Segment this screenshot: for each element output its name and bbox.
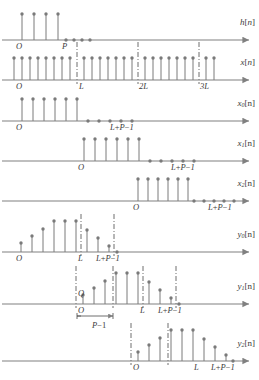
stem-dot-x-7 [68,56,71,59]
stem-dot-y1-6 [147,280,150,283]
panel-y1 [2,266,249,308]
tick-label-y0-2: L+P−1 [96,254,120,263]
stem-dot-y1-3 [114,271,117,274]
stem-dot-x-6 [60,56,63,59]
stem-dot-x-1 [20,56,23,59]
signal-label-y2: y2[n] [238,339,256,348]
stem-dot-x-22 [204,56,207,59]
zero-dot-x1-0 [148,159,151,162]
stem-dot-y2-1 [147,343,150,346]
signal-label-x0: x0[n] [238,99,256,108]
stem-dot-y0-3 [52,219,55,222]
stem-dot-x-5 [52,56,55,59]
stem-dot-x-23 [212,56,215,59]
stem-dot-x-21 [191,56,194,59]
stem-dot-x0-0 [20,97,23,100]
signal-label-h: h[n] [240,18,255,27]
stem-dot-y2-0 [136,350,139,353]
stem-dot-y0-7 [96,236,99,239]
panel-x0 [2,97,249,122]
stem-dot-y2-6 [202,337,205,340]
stem-dot-x0-5 [75,97,78,100]
panel-y2 [2,323,249,365]
stem-dot-x-2 [28,56,31,59]
stem-dot-y0-8 [107,244,110,247]
tick-label-y0-1: L [78,254,83,263]
tick-label-x2-0: O [133,203,139,212]
stem-dot-y1-7 [158,288,161,291]
stem-dot-x-17 [159,56,162,59]
stem-dot-x1-3 [115,137,118,140]
tick-label-h-1: P [62,42,67,51]
stem-dot-x-12 [114,56,117,59]
stem-dot-y0-1 [30,234,33,237]
stem-dot-y0-2 [41,227,44,230]
stem-dot-x2-0 [136,177,139,180]
tick-label-x-1: L [79,82,84,91]
tick-label-y2-2: L+P−1 [211,363,235,372]
stem-dot-x1-1 [93,137,96,140]
zero-dot-x1-1 [159,159,162,162]
tick-label-y0-0: O [16,254,22,263]
stem-dot-x1-0 [82,137,85,140]
signal-label-x2: x2[n] [238,179,256,188]
stem-dot-x-18 [167,56,170,59]
stem-dot-y2-2 [158,336,161,339]
stem-dot-x-20 [183,56,186,59]
stem-dot-x-0 [12,56,15,59]
panel-y0 [2,214,249,256]
stem-dot-h-1 [32,12,35,15]
stem-dot-y2-4 [180,328,183,331]
zero-dot-x2-0 [192,199,195,202]
stem-dot-y2-8 [224,353,227,356]
zero-dot-x0-1 [97,119,100,122]
tick-label-x2-1: L+P−1 [208,203,232,212]
stem-dot-y1-8 [169,296,172,299]
tick-label-y2-1: L [194,363,199,372]
stem-dot-x2-2 [156,177,159,180]
p-minus-1-label: P−1 [92,321,106,330]
tick-label-x-0: O [16,82,22,91]
stem-dot-x-14 [130,56,133,59]
zero-dot-x0-0 [86,119,89,122]
stem-dot-y0-6 [85,228,88,231]
stem-dot-y2-5 [191,328,194,331]
stem-dot-x-9 [90,56,93,59]
stem-dot-x1-4 [126,137,129,140]
stem-dot-y0-0 [19,241,22,244]
stem-dot-y2-7 [213,345,216,348]
signal-label-y0: y0[n] [238,230,256,239]
stem-dot-x0-2 [42,97,45,100]
zero-dot-h-2 [80,38,83,41]
q-annotation-label: Q [78,289,84,298]
signal-label-x1: x1[n] [238,139,256,148]
stem-dot-x-11 [106,56,109,59]
panel-x [2,42,249,84]
tick-label-x0-1: L+P−1 [110,123,134,132]
panel-h [2,12,249,41]
stem-dot-y1-2 [103,279,106,282]
signal-label-x: x[n] [241,58,256,67]
stem-dot-x2-3 [166,177,169,180]
panel-x2 [2,177,249,202]
tick-label-x-3: 3L [200,82,209,91]
tick-label-y2-0: O [133,363,139,372]
stem-dot-y1-5 [136,271,139,274]
zero-dot-x2-4 [232,199,235,202]
stem-dot-h-2 [44,12,47,15]
tick-label-x0-0: O [16,123,22,132]
tick-label-x1-1: L+P−1 [171,163,195,172]
stem-dot-x1-5 [137,137,140,140]
stem-dot-y0-4 [63,219,66,222]
tick-label-y1-0: O [78,306,84,315]
stem-dot-y0-5 [74,219,77,222]
stem-dot-x-4 [44,56,47,59]
stem-dot-y2-3 [169,328,172,331]
stem-dot-y1-4 [125,271,128,274]
tick-label-x1-0: O [78,163,84,172]
stem-dot-x2-1 [146,177,149,180]
stem-dot-x-16 [151,56,154,59]
stem-dot-x1-2 [104,137,107,140]
stem-dot-x2-5 [186,177,189,180]
stem-dot-x-19 [175,56,178,59]
